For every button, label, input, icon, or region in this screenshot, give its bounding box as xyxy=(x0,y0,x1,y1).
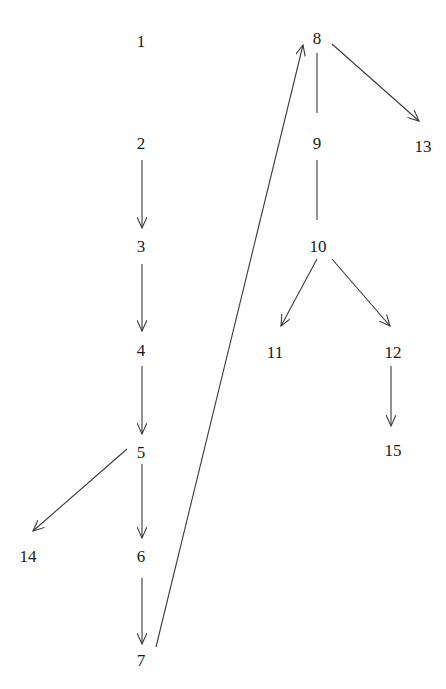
node-1: 1 xyxy=(137,33,146,50)
edge-10-to-12 xyxy=(332,259,390,326)
graph-canvas: 123456789101112131415 xyxy=(0,0,446,689)
node-14: 14 xyxy=(20,548,37,565)
node-13: 13 xyxy=(415,138,432,155)
node-10: 10 xyxy=(310,238,327,255)
node-7: 7 xyxy=(137,652,146,669)
node-6: 6 xyxy=(137,548,146,565)
edge-5-to-14 xyxy=(33,449,127,531)
node-12: 12 xyxy=(385,344,402,361)
edge-10-to-11 xyxy=(281,259,317,326)
edges-layer xyxy=(0,0,446,689)
node-9: 9 xyxy=(313,135,322,152)
node-8: 8 xyxy=(313,30,322,47)
node-3: 3 xyxy=(137,238,146,255)
node-5: 5 xyxy=(137,444,146,461)
node-11: 11 xyxy=(267,344,283,361)
node-4: 4 xyxy=(137,342,146,359)
node-15: 15 xyxy=(385,442,402,459)
edge-group xyxy=(33,44,419,647)
edge-8-to-13 xyxy=(332,44,419,121)
node-2: 2 xyxy=(137,135,146,152)
